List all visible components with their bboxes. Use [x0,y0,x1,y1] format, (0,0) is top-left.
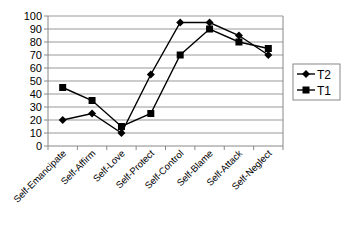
diamond-marker [176,19,184,27]
diamond-marker [147,71,155,79]
diamond-marker [264,51,272,59]
y-tick-label: 90 [30,23,42,35]
y-tick-label: 30 [30,101,42,113]
diamond-marker [117,129,125,137]
x-tick-label: Self-Emancipate [11,148,68,205]
square-marker [265,45,272,52]
y-tick-label: 0 [36,140,42,152]
legend-label: T1 [317,84,331,98]
y-tick-label: 20 [30,114,42,126]
square-marker [89,97,96,104]
y-tick-label: 70 [30,49,42,61]
square-marker [206,26,213,33]
y-axis: 0102030405060708090100 [24,10,48,152]
gridlines [48,16,283,146]
diamond-marker [206,19,214,27]
legend: T2T1 [293,64,340,100]
series-t2 [59,19,273,138]
square-marker [59,84,66,91]
diamond-marker [88,110,96,118]
y-tick-label: 80 [30,36,42,48]
y-tick-label: 100 [24,10,42,22]
y-tick-label: 10 [30,127,42,139]
line-chart: 0102030405060708090100 Self-EmancipateSe… [0,0,355,225]
x-axis: Self-EmancipateSelf-AffirmSelf-LoveSelf-… [11,146,283,205]
square-marker [147,110,154,117]
y-tick-label: 40 [30,88,42,100]
y-tick-label: 60 [30,62,42,74]
diamond-marker [59,116,67,124]
square-marker [303,87,310,94]
legend-label: T2 [317,68,331,82]
square-marker [235,39,242,46]
y-tick-label: 50 [30,75,42,87]
square-marker [177,52,184,59]
square-marker [118,123,125,130]
data-series [59,19,273,138]
diamond-marker [235,32,243,40]
